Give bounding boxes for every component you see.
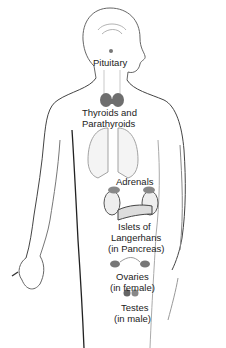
label-islets-line2: Langerhans <box>111 232 161 243</box>
label-thyroids-line2: Parathyroids <box>82 118 135 129</box>
label-ovaries-line2: (in female) <box>110 282 155 293</box>
head-outline <box>83 8 145 80</box>
neck-lines <box>104 70 120 95</box>
label-testes-line1: Testes <box>121 302 148 313</box>
pituitary-gland <box>109 49 113 53</box>
thyroid-gland <box>100 93 124 107</box>
label-pituitary: Pituitary <box>93 57 127 68</box>
label-islets-line1: Islets of <box>118 221 151 232</box>
lungs <box>88 128 138 178</box>
label-thyroids-line1: Thyroids and <box>82 107 137 118</box>
ovaries <box>110 258 150 268</box>
label-ovaries-line1: Ovaries <box>116 271 149 282</box>
pancreas <box>118 205 152 220</box>
label-islets-line3: (in Pancreas) <box>108 243 165 254</box>
label-adrenals: Adrenals <box>116 176 154 187</box>
endocrine-figure <box>0 0 226 348</box>
label-testes-line2: (in male) <box>114 313 151 324</box>
